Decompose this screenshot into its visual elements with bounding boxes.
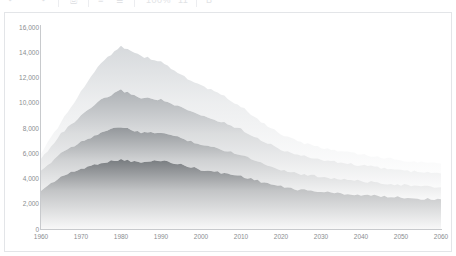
toolbar-divider [58, 0, 59, 7]
bold-icon[interactable]: B [206, 0, 213, 7]
align-right-icon[interactable]: ≣ [116, 0, 125, 7]
x-axis-tick-label: 2050 [386, 233, 416, 241]
toolbar-divider [134, 0, 135, 7]
x-axis-tick-label: 1970 [66, 233, 96, 241]
x-axis-tick-label: 2040 [346, 233, 376, 241]
font-size-value[interactable]: 11 [178, 0, 188, 7]
y-axis-tick-label: 12,000 [7, 74, 39, 81]
stacked-area-plot [41, 27, 441, 229]
y-axis-tick-label: 2,000 [7, 200, 39, 207]
x-axis-tick-label: 1990 [146, 233, 176, 241]
undo-icon[interactable]: ↶ [8, 0, 17, 7]
x-axis-tick-label: 2000 [186, 233, 216, 241]
x-axis-line [40, 229, 442, 230]
y-axis-tick-labels: 02,0004,0006,0008,00010,00012,00014,0001… [5, 13, 39, 253]
toolbar-strip: ↶ ↷ ⎙ ≡ ≣ 100% 11 B [0, 0, 456, 9]
y-axis-tick-label: 0 [7, 226, 39, 233]
print-icon[interactable]: ⎙ [70, 0, 78, 7]
y-axis-tick-label: 8,000 [7, 125, 39, 132]
y-axis-tick-label: 14,000 [7, 49, 39, 56]
y-axis-tick-label: 4,000 [7, 175, 39, 182]
x-axis-tick-label: 2030 [306, 233, 336, 241]
y-axis-tick-label: 16,000 [7, 24, 39, 31]
redo-icon[interactable]: ↷ [38, 0, 47, 7]
stacked-area-svg [41, 27, 441, 229]
x-axis-tick-label: 1980 [106, 233, 136, 241]
align-left-icon[interactable]: ≡ [98, 0, 104, 7]
x-axis-tick-label: 2010 [226, 233, 256, 241]
toolbar-divider [88, 0, 89, 7]
zoom-value[interactable]: 100% [146, 0, 171, 7]
chart-card: 02,0004,0006,0008,00010,00012,00014,0001… [4, 12, 452, 252]
x-axis-tick-label: 1960 [26, 233, 56, 241]
y-axis-tick-label: 6,000 [7, 150, 39, 157]
toolbar-divider [196, 0, 197, 7]
x-axis-tick-label: 2020 [266, 233, 296, 241]
x-axis-tick-label: 2060 [426, 233, 456, 241]
y-axis-tick-label: 10,000 [7, 99, 39, 106]
